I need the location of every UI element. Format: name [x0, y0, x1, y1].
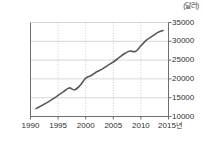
x-tick-label-text: 1995 [49, 121, 67, 130]
x-tick-label: 2010 [132, 122, 150, 130]
y-tick-label: 20000 [172, 75, 194, 83]
x-tick-label: 1995 [49, 122, 67, 130]
y-tick-label: 10000 [172, 113, 194, 121]
x-tick-label: 2015년 [158, 122, 182, 130]
horizontal-gridlines [31, 23, 169, 98]
chart-figure: (달러) 100001500020000250003000035000 1990… [0, 0, 205, 147]
x-tick-label-text: 2000 [77, 121, 95, 130]
x-tick-label-text: 2010 [132, 121, 150, 130]
x-tick-label-text: 2005 [104, 121, 122, 130]
y-tick-label: 35000 [172, 19, 194, 27]
data-line-series [36, 30, 163, 108]
x-tick-label: 2000 [77, 122, 95, 130]
y-tick-label: 25000 [172, 56, 194, 64]
vertical-gridlines [58, 23, 141, 117]
y-tick-label: 30000 [172, 37, 194, 45]
x-tick-label: 1990 [22, 122, 40, 130]
x-axis-year-suffix: 년 [176, 122, 182, 129]
y-tick-label: 15000 [172, 94, 194, 102]
x-tick-label-text: 2015 [158, 121, 176, 130]
x-tick-label-text: 1990 [22, 121, 40, 130]
x-tick-label: 2005 [104, 122, 122, 130]
